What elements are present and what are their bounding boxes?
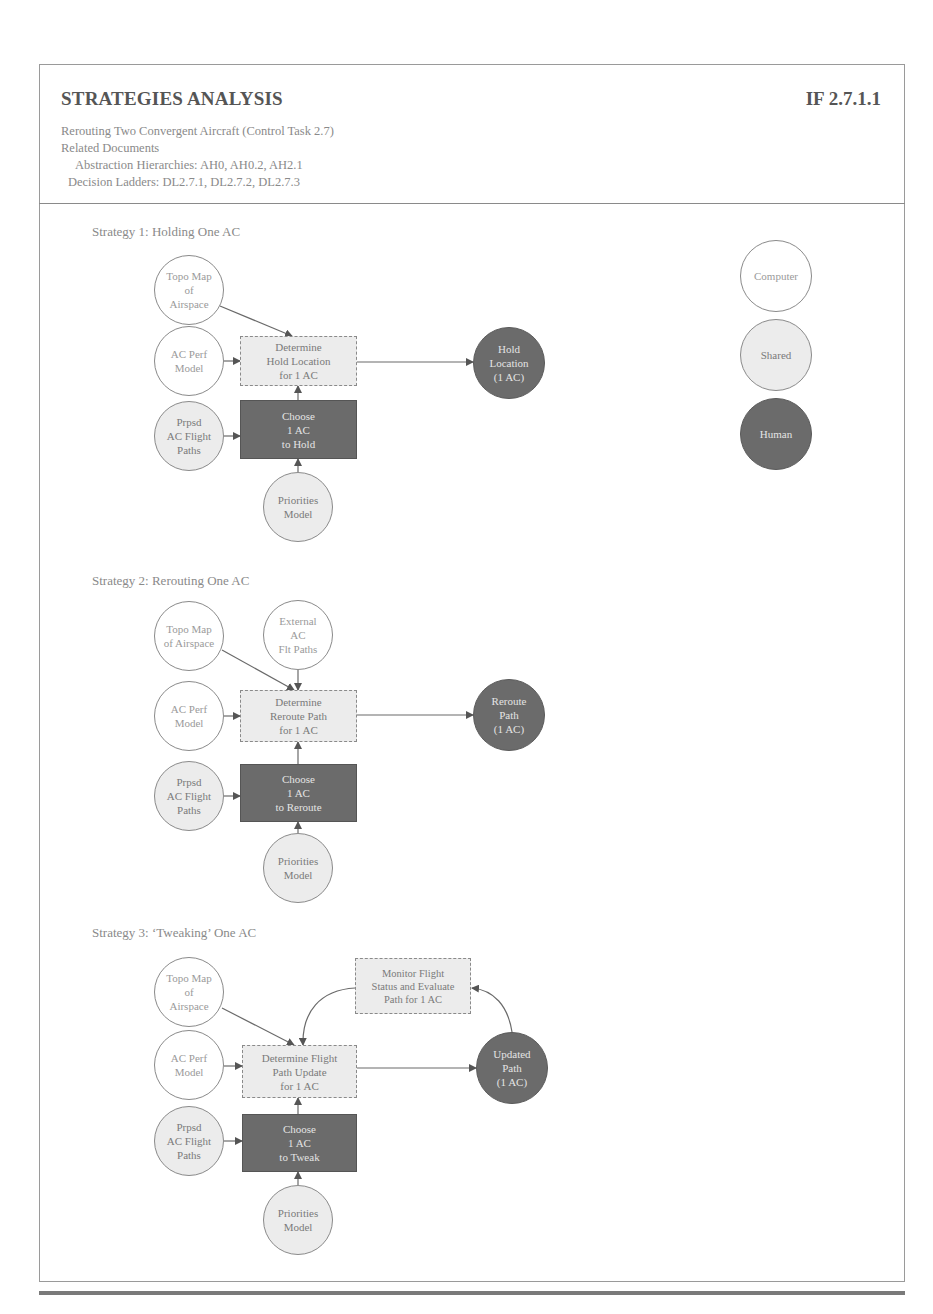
s1-proposed-flight-paths-node: Prpsd AC Flight Paths (154, 401, 224, 471)
s2-external-flight-paths-node: External AC Flt Paths (263, 600, 333, 670)
s3-choose-ac-box: Choose 1 AC to Tweak (242, 1114, 357, 1172)
s3-monitor-flight-status-box: Monitor Flight Status and Evaluate Path … (355, 958, 471, 1014)
s1-hold-location-output: Hold Location (1 AC) (473, 327, 545, 399)
strategy-1-label: Strategy 1: Holding One AC (92, 224, 240, 240)
diagram-connectors (0, 0, 933, 1314)
legend-computer: Computer (740, 240, 812, 312)
s2-topo-map-node: Topo Map of Airspace (154, 601, 224, 671)
s1-ac-perf-model-node: AC Perf Model (154, 326, 224, 396)
s1-determine-hold-location-box: Determine Hold Location for 1 AC (240, 336, 357, 386)
s1-priorities-model-node: Priorities Model (263, 472, 333, 542)
s3-topo-map-node: Topo Map of Airspace (154, 957, 224, 1027)
legend-human: Human (740, 398, 812, 470)
s1-choose-ac-box: Choose 1 AC to Hold (240, 400, 357, 459)
strategy-3-label: Strategy 3: ‘Tweaking’ One AC (92, 925, 256, 941)
s3-determine-flight-path-update-box: Determine Flight Path Update for 1 AC (242, 1045, 357, 1098)
strategy-2-label: Strategy 2: Rerouting One AC (92, 573, 249, 589)
s1-topo-map-node: Topo Map of Airspace (154, 255, 224, 325)
s2-choose-ac-box: Choose 1 AC to Reroute (240, 764, 357, 822)
s2-reroute-path-output: Reroute Path (1 AC) (473, 679, 545, 751)
s3-proposed-flight-paths-node: Prpsd AC Flight Paths (154, 1106, 224, 1176)
s2-ac-perf-model-node: AC Perf Model (154, 681, 224, 751)
s2-proposed-flight-paths-node: Prpsd AC Flight Paths (154, 761, 224, 831)
s2-determine-reroute-path-box: Determine Reroute Path for 1 AC (240, 690, 357, 742)
legend-shared: Shared (740, 319, 812, 391)
s2-priorities-model-node: Priorities Model (263, 833, 333, 903)
s3-updated-path-output: Updated Path (1 AC) (476, 1032, 548, 1104)
s3-priorities-model-node: Priorities Model (263, 1185, 333, 1255)
s3-ac-perf-model-node: AC Perf Model (154, 1030, 224, 1100)
